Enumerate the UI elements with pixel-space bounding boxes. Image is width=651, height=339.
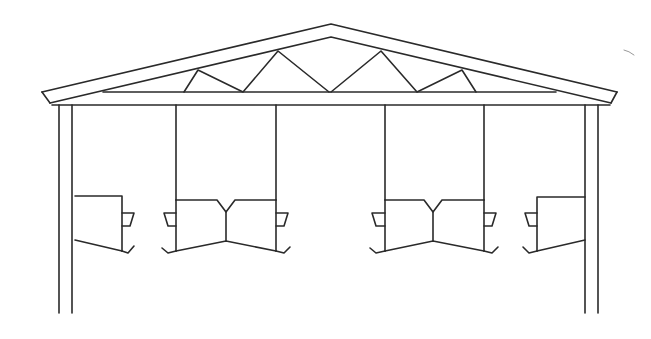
pitched-roof bbox=[42, 24, 617, 103]
web-truss bbox=[184, 51, 476, 92]
trough-left-double bbox=[162, 200, 290, 253]
hangers bbox=[176, 105, 484, 200]
stray-mark bbox=[624, 50, 634, 55]
outer-right-post bbox=[585, 105, 598, 313]
shelter-drawing bbox=[0, 0, 651, 339]
trough-left-single bbox=[75, 196, 134, 253]
tie-beam bbox=[52, 92, 610, 105]
trough-right-double bbox=[370, 200, 498, 253]
shelter-diagram: Open-sided livestock shelter cross-secti… bbox=[0, 0, 651, 339]
outer-left-post bbox=[59, 105, 72, 313]
trough-right-single bbox=[523, 197, 585, 253]
